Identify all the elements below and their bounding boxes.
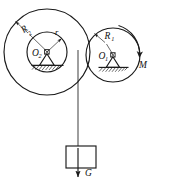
moment-arc-arrow [119,26,140,57]
label-M: M [138,60,148,70]
left-pin-support-triangle [40,54,55,65]
label-R2-group: R 2 [18,23,33,36]
left-pulley-group: R 2 r O 2 [4,9,90,95]
label-R1-subscript: 1 [111,35,114,42]
mechanics-figure: R 2 r O 2 [0,0,170,182]
label-O1-group: O 1 [99,51,109,62]
right-pulley-group: R 1 O 1 [86,26,148,83]
label-R1-group: R 1 [104,31,115,42]
label-O2-group: O 2 [32,48,42,59]
figure-canvas: R 2 r O 2 [0,0,170,182]
label-R1: R [104,31,111,41]
load-group: G [66,50,96,178]
label-G: G [85,168,92,178]
hanging-block [66,146,96,168]
right-radius-leader [95,34,106,43]
label-O1-subscript: 1 [105,55,108,62]
label-O2-subscript: 2 [39,52,42,59]
label-R2-subscript: 2 [26,29,33,36]
right-pin-support-triangle [106,57,119,67]
right-ground-hatching [99,68,127,72]
